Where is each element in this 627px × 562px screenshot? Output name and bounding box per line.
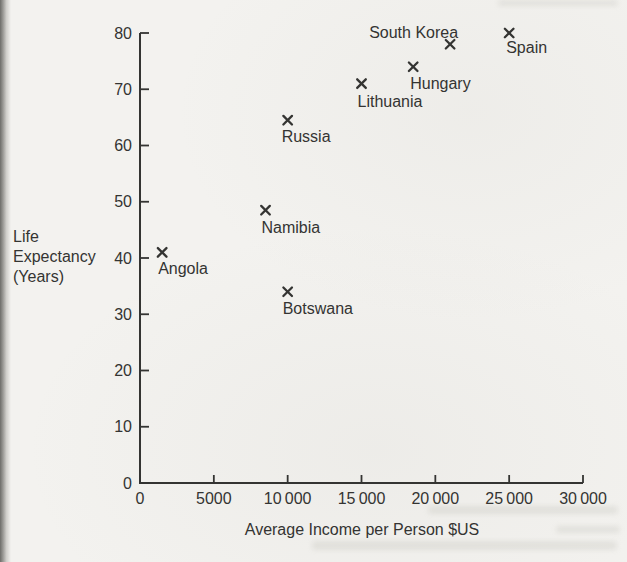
data-point-lithuania (357, 79, 366, 88)
x-tick-label-10000: 10 000 (264, 490, 312, 507)
y-tick-label-60: 60 (114, 137, 132, 154)
data-point-angola (158, 248, 167, 257)
x-tick-label-5000: 5000 (196, 490, 232, 507)
point-label-hungary: Hungary (410, 75, 470, 92)
x-tick-label-0: 0 (136, 490, 145, 507)
point-label-angola: Angola (158, 260, 208, 277)
data-point-russia (283, 116, 292, 125)
point-label-botswana: Botswana (283, 300, 353, 317)
x-tick-label-30000: 30 000 (559, 490, 607, 507)
x-axis-title: Average Income per Person $US (140, 521, 584, 539)
point-label-spain: Spain (506, 39, 547, 56)
x-tick-label-20000: 20 000 (411, 490, 459, 507)
point-label-russia: Russia (282, 128, 331, 145)
data-point-namibia (261, 206, 270, 215)
y-axis-title-line-3: (Years) (13, 267, 96, 287)
y-tick-label-0: 0 (123, 475, 132, 492)
y-axis-title-line-2: Expectancy (13, 247, 96, 267)
data-point-spain (505, 29, 514, 38)
scatter-plot-figure: 010203040506070800500010 00015 00020 000… (0, 0, 627, 562)
y-tick-label-70: 70 (114, 81, 132, 98)
y-tick-label-40: 40 (114, 250, 132, 267)
y-tick-label-10: 10 (114, 418, 132, 435)
point-label-namibia: Namibia (262, 219, 321, 236)
data-point-botswana (283, 287, 292, 296)
data-point-hungary (409, 62, 418, 71)
y-tick-label-20: 20 (114, 362, 132, 379)
x-tick-label-15000: 15 000 (338, 490, 386, 507)
point-label-lithuania: Lithuania (358, 93, 423, 110)
y-axis-title: Life Expectancy (Years) (13, 227, 96, 287)
y-tick-label-50: 50 (114, 193, 132, 210)
point-label-south-korea: South Korea (369, 24, 458, 41)
y-tick-label-30: 30 (114, 306, 132, 323)
y-tick-label-80: 80 (114, 25, 132, 42)
x-tick-label-25000: 25 000 (485, 490, 533, 507)
y-axis-title-line-1: Life (13, 227, 96, 247)
